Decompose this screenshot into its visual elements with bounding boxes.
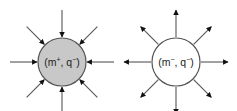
inward-arrow [80, 80, 98, 98]
outward-arrow [141, 27, 159, 45]
inward-arrow [27, 27, 45, 45]
diagram-canvas: (m+, q−) (m−, q−) [0, 0, 237, 111]
outward-arrow [194, 80, 212, 98]
outward-arrow [141, 80, 159, 98]
outward-arrow [194, 27, 212, 45]
inward-arrow [80, 27, 98, 45]
inward-arrow [27, 80, 45, 98]
